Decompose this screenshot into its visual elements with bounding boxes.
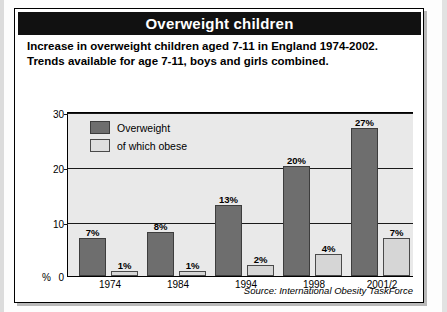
ytick-label-30: 30 <box>53 109 64 120</box>
bar-label-overweight-2001-2: 27% <box>355 117 374 128</box>
page-edge-left <box>0 0 4 312</box>
bar-label-overweight-1994: 13% <box>219 194 238 205</box>
bar-label-obese-1974: 1% <box>118 260 132 271</box>
bar-overweight-1998: 20% <box>283 166 310 276</box>
bar-label-overweight-1984: 8% <box>154 221 168 232</box>
bar-chart: 30 20 10 0 % Overweigh <box>53 104 418 289</box>
ytick-label-0: 0 <box>58 271 64 282</box>
bar-group-1974: 7% 1% 1974 <box>74 113 142 276</box>
ytick-mark-30 <box>64 114 68 115</box>
ytick-label-20: 20 <box>53 164 64 175</box>
bar-label-obese-1998: 4% <box>322 243 336 254</box>
ytick-mark-20 <box>64 169 68 170</box>
bar-label-overweight-1998: 20% <box>287 155 306 166</box>
title-bar: Overweight children <box>18 12 421 35</box>
bar-label-obese-1994: 2% <box>254 254 268 265</box>
y-axis-unit-label: % <box>42 272 51 283</box>
subtitle-line-1: Increase in overweight children aged 7-1… <box>27 39 417 54</box>
bar-overweight-1974: 7% <box>79 238 106 277</box>
bar-group-1984: 8% 1% 1984 <box>142 113 210 276</box>
bar-group-1994: 13% 2% 1994 <box>210 113 278 276</box>
infographic-card: Overweight children Increase in overweig… <box>14 8 424 303</box>
page-title: Overweight children <box>18 12 421 35</box>
ytick-mark-10 <box>64 224 68 225</box>
bar-label-overweight-1974: 7% <box>86 227 100 238</box>
page-canvas: Overweight children Increase in overweig… <box>0 0 447 312</box>
bar-group-1998: 20% 4% 1998 <box>278 113 346 276</box>
bar-label-obese-2001-2: 7% <box>390 227 404 238</box>
bar-obese-1974: 1% <box>111 271 138 277</box>
bar-group-2001-2: 27% 7% 2001/2 <box>346 113 414 276</box>
bar-overweight-1994: 13% <box>215 205 242 277</box>
bar-obese-1984: 1% <box>179 271 206 277</box>
page-edge-right <box>442 0 447 312</box>
source-note: Source: International Obesity TaskForce <box>244 285 413 296</box>
bar-obese-1994: 2% <box>247 265 274 276</box>
bar-overweight-2001-2: 27% <box>351 128 378 277</box>
xtick-label-1974: 1974 <box>99 279 121 290</box>
subtitle-line-2: Trends available for age 7-11, boys and … <box>27 54 417 69</box>
xtick-label-1984: 1984 <box>167 279 189 290</box>
bar-label-obese-1984: 1% <box>186 260 200 271</box>
bar-obese-1998: 4% <box>315 254 342 276</box>
bar-obese-2001-2: 7% <box>383 238 410 277</box>
subtitle-block: Increase in overweight children aged 7-1… <box>27 39 417 69</box>
plot-area: 30 20 10 0 % Overweigh <box>67 112 413 277</box>
bar-overweight-1984: 8% <box>147 232 174 276</box>
ytick-label-10: 10 <box>53 219 64 230</box>
